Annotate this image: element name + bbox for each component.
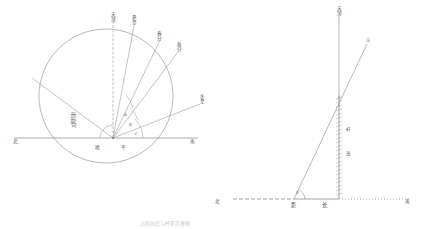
baseline-label-east: 南	[405, 199, 410, 204]
left-diagram-graphics	[0, 0, 213, 229]
sun-ray-line	[294, 44, 367, 199]
horizon-label-east: 南	[190, 139, 195, 144]
ray-label-zenith-char2: 顶	[110, 17, 116, 22]
angle-label-h: h	[296, 190, 299, 195]
horizon-label-west: 北	[13, 139, 18, 144]
angle-arc-zenith	[100, 125, 113, 138]
ray-label-winter-char2: 至	[199, 99, 205, 104]
baseline-label-west: 北	[215, 199, 220, 204]
figure-canvas: 天 顶 夏 至 春 分 秋 分 冬 至 a b c 太阳照射 北 南 地 平	[0, 0, 425, 229]
ground-label-left: 地	[95, 145, 100, 150]
origin-point	[112, 137, 114, 139]
figure-caption: 太阳高度与杆影示意图	[140, 219, 190, 226]
angle-mark-a: a	[124, 112, 127, 117]
ray-label-equinox-char2: 分	[156, 36, 162, 41]
ray-label-autumn-char2: 分	[176, 47, 182, 52]
angle-mark-c: c	[135, 131, 137, 136]
right-diagram-graphics	[213, 0, 425, 229]
zenith-label-char2: 顶	[336, 11, 342, 16]
solar-beam-label: 太阳照射	[70, 112, 76, 128]
ray-label-autumn: 秋 分	[176, 42, 182, 53]
zenith-label: 天 顶	[336, 6, 342, 17]
solar-beam-line	[32, 78, 113, 138]
angle-arc-h	[299, 190, 305, 199]
celestial-circle	[39, 29, 173, 163]
ray-label-winter-solstice: 冬 至	[199, 94, 205, 105]
ray-label-equinox: 春 分	[156, 31, 162, 42]
ray-label-summer-solstice: 夏 至	[131, 15, 137, 26]
ground-label-right: 平	[121, 145, 126, 150]
pole-height-label: 杆 高	[345, 118, 351, 166]
ray-equinox	[113, 40, 160, 138]
shadow-label-right: 长	[322, 203, 327, 208]
ray-label-zenith: 天 顶	[110, 12, 116, 23]
shadow-label-left: 影	[291, 203, 296, 208]
angle-mark-b: b	[129, 122, 132, 127]
ray-label-summer-char2: 至	[131, 20, 137, 25]
pole-height-char1: 杆	[345, 118, 351, 142]
pole-height-char2: 高	[345, 142, 351, 166]
sun-symbol-icon: ☉	[366, 38, 370, 43]
